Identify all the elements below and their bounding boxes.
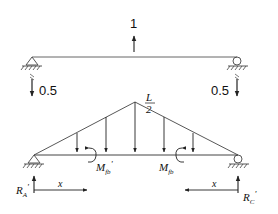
triangular-load-envelope <box>34 102 238 155</box>
right-roller-support-top <box>227 57 248 70</box>
x-right-label: x <box>211 178 217 189</box>
right-roller-support-bottom <box>228 155 249 168</box>
distributed-load-arrows <box>77 102 193 152</box>
peak-label-numerator: L <box>145 91 152 103</box>
reaction-left-label: RA' <box>15 182 30 199</box>
top-beam: 1 0.5 0.5 <box>21 16 248 98</box>
right-reaction-label-top: 0.5 <box>211 83 229 98</box>
beam-diagram: 1 0.5 0.5 L <box>0 0 278 214</box>
left-pin-support-top <box>21 57 42 70</box>
left-pin-support-bottom <box>23 155 44 168</box>
moment-left-label: Mfb' <box>95 159 114 176</box>
bottom-beam: L 2 Mfb' Mfb <box>15 91 257 206</box>
reaction-right-label: RC' <box>242 189 257 206</box>
x-left-label: x <box>57 178 63 189</box>
unit-load-label: 1 <box>130 16 137 31</box>
moment-right-label: Mfb <box>158 161 174 176</box>
left-reaction-label-top: 0.5 <box>39 83 57 98</box>
